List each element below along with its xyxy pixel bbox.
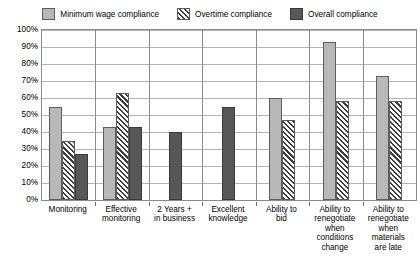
bar — [282, 120, 295, 200]
bar-group — [256, 30, 309, 200]
y-axis-tick — [34, 46, 38, 47]
legend-item: Overall compliance — [290, 8, 378, 20]
chart-legend: Minimum wage complianceOvertime complian… — [0, 4, 420, 24]
legend-item: Minimum wage compliance — [42, 8, 159, 20]
y-axis-tick — [34, 114, 38, 115]
x-axis-category-label: 2 Years + in business — [148, 205, 201, 224]
category-separator — [202, 30, 203, 200]
legend-swatch-icon — [290, 8, 303, 20]
y-axis-tick — [34, 165, 38, 166]
y-axis-tick-label: 30% — [22, 145, 38, 153]
legend-label: Overtime compliance — [195, 10, 272, 19]
bar — [62, 141, 75, 201]
bar — [49, 107, 62, 201]
bar-group — [149, 30, 202, 200]
category-separator — [95, 30, 96, 200]
bar — [376, 76, 389, 200]
y-axis-tick-label: 60% — [22, 94, 38, 102]
bar-group — [42, 30, 95, 200]
y-axis-tick-label: 40% — [22, 128, 38, 136]
x-axis-category-label: Ability to renegotiate when conditions c… — [308, 205, 361, 252]
y-axis-tick — [34, 148, 38, 149]
bar — [269, 98, 282, 200]
x-axis-category-label: Ability to renegotiate when materials ar… — [362, 205, 415, 252]
y-axis-tick-label: 10% — [22, 179, 38, 187]
legend-label: Minimum wage compliance — [60, 10, 159, 19]
bar — [129, 127, 142, 200]
category-separator — [256, 30, 257, 200]
y-axis-tick-label: 50% — [22, 111, 38, 119]
y-axis-tick-label: 90% — [22, 43, 38, 51]
bar — [116, 93, 129, 200]
bar — [169, 132, 182, 200]
y-axis-tick-label: 20% — [22, 162, 38, 170]
bar — [389, 101, 402, 200]
bar-group — [363, 30, 416, 200]
bar — [103, 127, 116, 200]
bar — [75, 154, 88, 200]
y-axis-tick — [34, 80, 38, 81]
y-axis-tick — [34, 29, 38, 30]
legend-label: Overall compliance — [308, 10, 378, 19]
category-separator — [309, 30, 310, 200]
y-axis-tick — [34, 97, 38, 98]
bar — [336, 101, 349, 200]
legend-swatch-icon — [42, 8, 55, 20]
bar — [323, 42, 336, 200]
bar-group — [309, 30, 362, 200]
category-separator — [363, 30, 364, 200]
y-axis-tick — [34, 63, 38, 64]
bar-group — [202, 30, 255, 200]
bar-group — [95, 30, 148, 200]
y-axis-tick — [34, 199, 38, 200]
x-axis-category-label: Excellent knowledge — [201, 205, 254, 224]
category-separator — [149, 30, 150, 200]
bar — [222, 107, 235, 201]
y-axis-labels: 0%10%20%30%40%50%60%70%80%90%100% — [0, 29, 38, 201]
y-axis-tick — [34, 182, 38, 183]
y-axis-tick — [34, 131, 38, 132]
bars-layer — [42, 30, 416, 200]
x-axis-category-label: Ability to bid — [255, 205, 308, 224]
bar-chart: Minimum wage complianceOvertime complian… — [0, 0, 420, 270]
x-axis-category-label: Effective monitoring — [94, 205, 147, 224]
legend-item: Overtime compliance — [177, 8, 272, 20]
y-axis-tick-label: 100% — [17, 26, 38, 34]
legend-swatch-icon — [177, 8, 190, 20]
y-axis-tick-label: 0% — [26, 196, 38, 204]
y-axis-tick-label: 70% — [22, 77, 38, 85]
x-axis-labels: MonitoringEffective monitoring2 Years + … — [41, 202, 417, 268]
x-axis-category-label: Monitoring — [41, 205, 94, 214]
y-axis-tick-label: 80% — [22, 60, 38, 68]
plot-area — [41, 29, 417, 201]
